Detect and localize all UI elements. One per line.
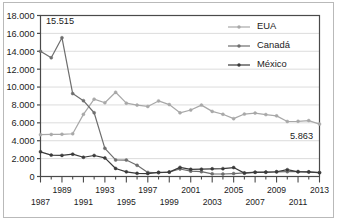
y-axis-tick-label: 8.000 bbox=[12, 100, 35, 110]
data-point bbox=[232, 172, 235, 175]
data-point bbox=[307, 119, 310, 122]
data-point bbox=[60, 154, 63, 157]
legend-swatch-marker bbox=[237, 63, 240, 66]
y-axis-tick-label: 6.000 bbox=[12, 118, 35, 128]
line-chart: 02.0004.0006.0008.00010.00012.00014.0001… bbox=[0, 0, 337, 221]
data-point bbox=[103, 156, 106, 159]
data-point bbox=[103, 101, 106, 104]
data-point bbox=[286, 168, 289, 171]
data-point bbox=[60, 133, 63, 136]
x-axis-tick-label: 2007 bbox=[246, 197, 265, 207]
data-point bbox=[136, 104, 139, 107]
x-axis-tick-label: 1989 bbox=[52, 185, 71, 195]
y-axis-tick-label: 10.000 bbox=[6, 82, 34, 92]
legend-swatch-marker bbox=[237, 25, 240, 28]
y-axis-tick-label: 16.000 bbox=[6, 29, 34, 39]
data-point bbox=[82, 113, 85, 116]
y-axis-tick-label: 14.000 bbox=[6, 47, 34, 57]
data-point bbox=[157, 99, 160, 102]
data-point bbox=[318, 171, 321, 174]
data-point bbox=[71, 153, 74, 156]
data-point bbox=[50, 56, 53, 59]
data-point bbox=[200, 104, 203, 107]
legend-label: México bbox=[257, 58, 287, 69]
data-point bbox=[243, 172, 246, 175]
x-axis-tick-label: 2011 bbox=[289, 197, 308, 207]
data-point bbox=[318, 123, 321, 126]
data-point bbox=[179, 111, 182, 114]
data-point bbox=[71, 132, 74, 135]
data-point bbox=[125, 170, 128, 173]
data-point bbox=[211, 172, 214, 175]
data-point bbox=[189, 168, 192, 171]
data-point bbox=[179, 166, 182, 169]
x-axis-tick-label: 2013 bbox=[310, 185, 329, 195]
data-point bbox=[39, 150, 42, 153]
data-point bbox=[60, 36, 63, 39]
x-axis-tick-label: 2003 bbox=[203, 197, 222, 207]
y-axis-tick-label: 2.000 bbox=[12, 154, 35, 164]
data-point bbox=[39, 133, 42, 136]
x-axis-ticks bbox=[41, 177, 320, 183]
data-point bbox=[136, 164, 139, 167]
data-point bbox=[221, 113, 224, 116]
data-point bbox=[82, 156, 85, 159]
data-point bbox=[114, 167, 117, 170]
y-axis-tick-label: 0 bbox=[29, 172, 34, 182]
x-axis-tick-label: 2005 bbox=[224, 185, 243, 195]
data-label-annotation: 15.515 bbox=[46, 16, 74, 26]
data-point bbox=[103, 147, 106, 150]
data-point bbox=[275, 114, 278, 117]
data-point bbox=[232, 166, 235, 169]
y-axis-tick-label: 4.000 bbox=[12, 136, 35, 146]
data-point bbox=[82, 99, 85, 102]
data-point bbox=[232, 117, 235, 120]
x-axis-tick-label: 1995 bbox=[117, 197, 136, 207]
chart-figure: 02.0004.0006.0008.00010.00012.00014.0001… bbox=[0, 0, 337, 221]
data-point bbox=[114, 158, 117, 161]
data-point bbox=[254, 112, 257, 115]
data-point bbox=[146, 172, 149, 175]
data-point bbox=[93, 98, 96, 101]
x-axis-tick-labels: 1989199319972001200520092013198719911995… bbox=[31, 185, 329, 207]
x-axis-tick-label: 1999 bbox=[160, 197, 179, 207]
data-point bbox=[71, 92, 74, 95]
data-point bbox=[211, 110, 214, 113]
data-point bbox=[264, 113, 267, 116]
data-point bbox=[157, 171, 160, 174]
data-point bbox=[93, 111, 96, 114]
x-axis-tick-label: 1993 bbox=[95, 185, 114, 195]
data-point bbox=[168, 171, 171, 174]
data-point bbox=[136, 172, 139, 175]
data-point bbox=[168, 103, 171, 106]
data-point bbox=[125, 159, 128, 162]
data-point bbox=[50, 133, 53, 136]
legend-label: Canadá bbox=[257, 39, 291, 50]
data-point bbox=[286, 120, 289, 123]
data-point bbox=[39, 50, 42, 53]
data-point bbox=[221, 173, 224, 176]
data-point bbox=[50, 154, 53, 157]
data-point bbox=[125, 102, 128, 105]
data-point bbox=[221, 167, 224, 170]
data-point bbox=[211, 167, 214, 170]
data-point bbox=[93, 154, 96, 157]
data-point bbox=[275, 170, 278, 173]
x-axis-tick-label: 1997 bbox=[138, 185, 157, 195]
legend-swatch-marker bbox=[237, 44, 240, 47]
data-point bbox=[200, 168, 203, 171]
data-point bbox=[243, 113, 246, 116]
y-axis-tick-label: 12.000 bbox=[6, 65, 34, 75]
x-axis-tick-label: 2009 bbox=[267, 185, 286, 195]
legend-label: EUA bbox=[257, 20, 277, 31]
y-axis-tick-labels: 02.0004.0006.0008.00010.00012.00014.0001… bbox=[6, 11, 34, 182]
x-axis-tick-label: 2001 bbox=[181, 185, 200, 195]
data-label-annotation: 5.863 bbox=[290, 131, 313, 141]
data-point bbox=[307, 170, 310, 173]
data-point bbox=[297, 120, 300, 123]
x-axis-tick-label: 1987 bbox=[31, 197, 50, 207]
x-axis-tick-label: 1991 bbox=[74, 197, 93, 207]
data-point bbox=[254, 171, 257, 174]
data-point bbox=[297, 170, 300, 173]
data-point bbox=[264, 171, 267, 174]
